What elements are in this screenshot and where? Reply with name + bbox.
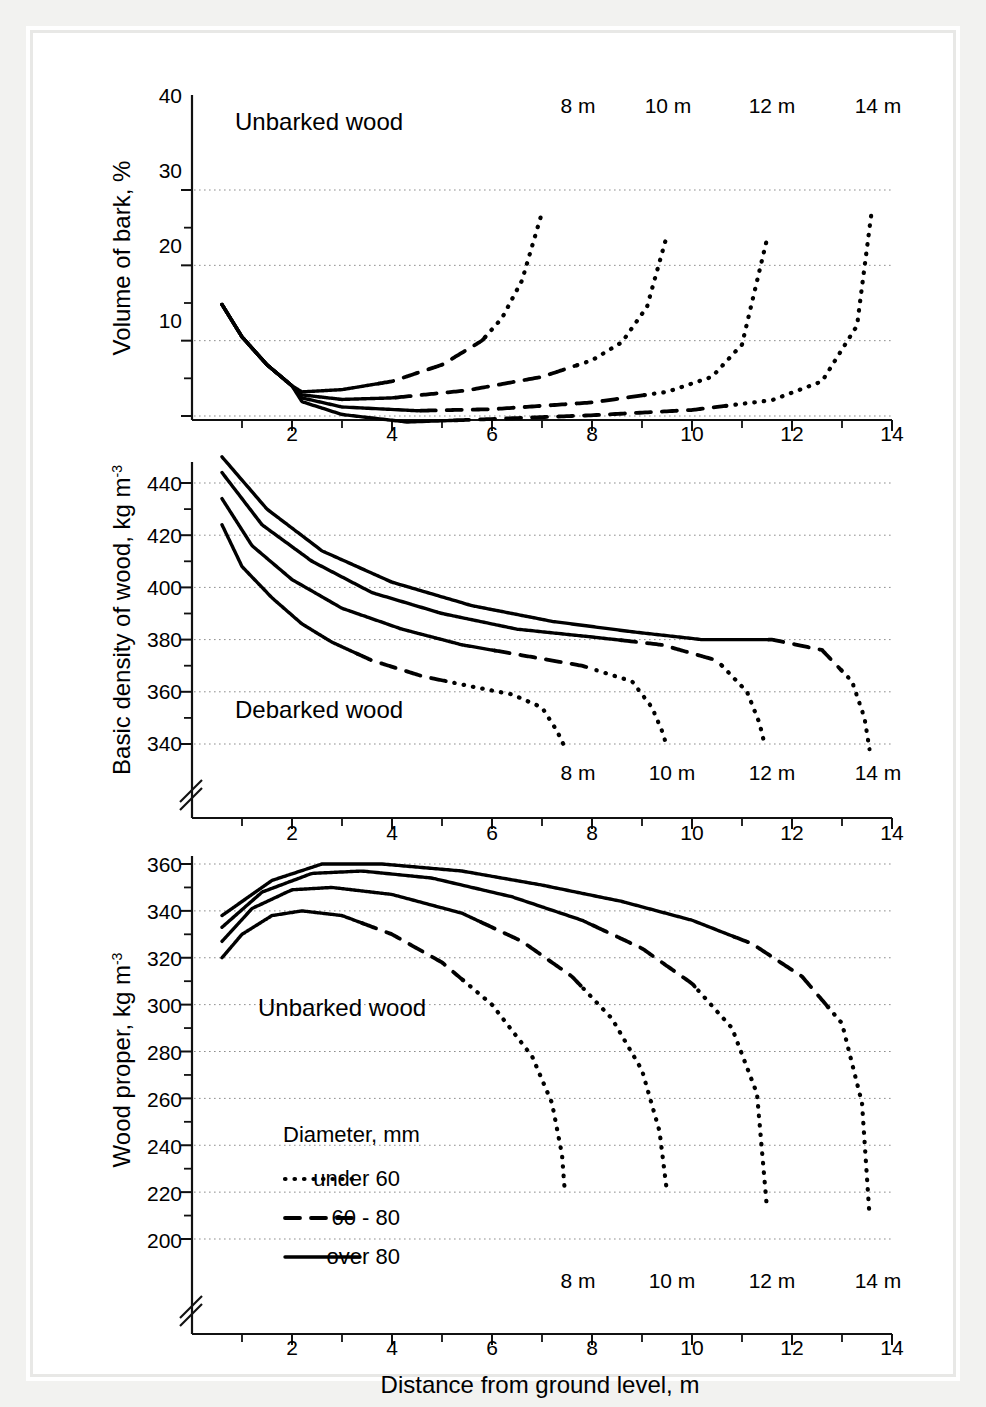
mid-xtick-12: 12: [780, 821, 803, 844]
bot-ytick-320: 320: [147, 947, 182, 970]
bottom-y-axis-title-main: Wood proper, kg m: [108, 965, 135, 1167]
bot-series-label-14m: 14 m: [855, 1269, 902, 1292]
mid-ytick-400: 400: [147, 576, 182, 599]
mid-xtick-2: 2: [286, 821, 298, 844]
bot-ytick-200: 200: [147, 1229, 182, 1252]
mid-series-label-8m: 8 m: [560, 761, 595, 784]
mid-ytick-360: 360: [147, 680, 182, 703]
bottom-y-axis-title: Wood proper, kg m-3: [108, 952, 135, 1167]
top-series-label-14m: 14 m: [855, 94, 902, 117]
middle-y-axis-title-main: Basic density of wood, kg m: [108, 477, 135, 774]
mid-ytick-340: 340: [147, 732, 182, 755]
bot-ytick-280: 280: [147, 1041, 182, 1064]
top-ytick-20: 20: [159, 234, 182, 257]
bot-series-label-8m: 8 m: [560, 1269, 595, 1292]
legend-label-under-60: under 60: [313, 1166, 400, 1191]
mid-series-label-14m: 14 m: [855, 761, 902, 784]
bottom-panel-annotation: Unbarked wood: [258, 994, 426, 1021]
chart-text-layer: Volume of bark, % Unbarked wood 40 30 20…: [0, 0, 986, 1407]
bot-ytick-220: 220: [147, 1182, 182, 1205]
bot-xtick-10: 10: [680, 1336, 703, 1359]
top-ytick-40: 40: [159, 84, 182, 107]
bot-xtick-8: 8: [586, 1336, 598, 1359]
mid-series-label-12m: 12 m: [749, 761, 796, 784]
bot-xtick-2: 2: [286, 1336, 298, 1359]
top-xtick-14: 14: [880, 422, 904, 445]
figure-page: Volume of bark, % Unbarked wood 40 30 20…: [0, 0, 986, 1407]
top-xtick-2: 2: [286, 422, 298, 445]
mid-ytick-420: 420: [147, 524, 182, 547]
bot-xtick-4: 4: [386, 1336, 398, 1359]
top-xtick-8: 8: [586, 422, 598, 445]
mid-xtick-6: 6: [486, 821, 498, 844]
bot-ytick-300: 300: [147, 994, 182, 1017]
mid-ytick-440: 440: [147, 472, 182, 495]
bot-series-label-10m: 10 m: [649, 1269, 696, 1292]
bot-ytick-340: 340: [147, 900, 182, 923]
top-ytick-10: 10: [159, 309, 182, 332]
mid-xtick-14: 14: [880, 821, 904, 844]
bot-ytick-360: 360: [147, 853, 182, 876]
top-y-axis-title: Volume of bark, %: [108, 161, 135, 356]
bot-series-label-12m: 12 m: [749, 1269, 796, 1292]
top-ytick-30: 30: [159, 159, 182, 182]
top-series-label-8m: 8 m: [560, 94, 595, 117]
top-series-label-10m: 10 m: [645, 94, 692, 117]
middle-y-axis-title-sup: -3: [109, 465, 125, 478]
bot-ytick-260: 260: [147, 1088, 182, 1111]
bottom-y-axis-title-sup: -3: [109, 952, 125, 965]
middle-y-axis-title: Basic density of wood, kg m-3: [108, 465, 135, 775]
bot-xtick-12: 12: [780, 1336, 803, 1359]
top-panel-annotation: Unbarked wood: [235, 108, 403, 135]
legend-label-over-80: over 80: [327, 1244, 400, 1269]
legend-label-60-80: 60 - 80: [332, 1205, 401, 1230]
top-xtick-10: 10: [680, 422, 703, 445]
bot-ytick-240: 240: [147, 1135, 182, 1158]
three-panel-figure: Volume of bark, % Unbarked wood 40 30 20…: [0, 0, 986, 1407]
mid-xtick-8: 8: [586, 821, 598, 844]
middle-panel-annotation: Debarked wood: [235, 696, 403, 723]
mid-xtick-10: 10: [680, 821, 703, 844]
top-xtick-12: 12: [780, 422, 803, 445]
x-axis-title: Distance from ground level, m: [381, 1371, 700, 1398]
bot-xtick-6: 6: [486, 1336, 498, 1359]
mid-series-label-10m: 10 m: [649, 761, 696, 784]
top-xtick-6: 6: [486, 422, 498, 445]
mid-xtick-4: 4: [386, 821, 398, 844]
mid-ytick-380: 380: [147, 628, 182, 651]
legend-title: Diameter, mm: [283, 1122, 420, 1147]
top-xtick-4: 4: [386, 422, 398, 445]
bot-xtick-14: 14: [880, 1336, 904, 1359]
top-series-label-12m: 12 m: [749, 94, 796, 117]
